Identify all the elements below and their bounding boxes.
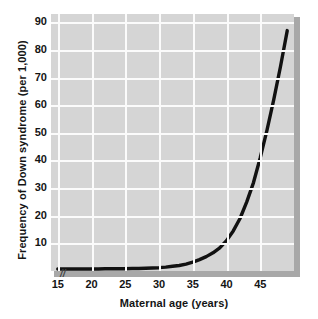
x-gridline bbox=[92, 14, 94, 271]
y-gridline bbox=[51, 105, 294, 107]
x-gridline bbox=[58, 14, 60, 271]
y-tick-label: 70 bbox=[1, 71, 47, 83]
x-tick-label: 20 bbox=[77, 278, 107, 290]
y-tick-label: 20 bbox=[1, 209, 47, 221]
y-tick-label: 10 bbox=[1, 236, 47, 248]
chart-figure: Frequency of Down syndrome (per 1,000) 1… bbox=[0, 0, 318, 319]
x-gridline bbox=[193, 14, 195, 271]
y-tick-label: 40 bbox=[1, 153, 47, 165]
y-tick-label: 90 bbox=[1, 15, 47, 27]
x-tick-label: 40 bbox=[212, 278, 242, 290]
y-tick-label: 80 bbox=[1, 43, 47, 55]
y-gridline bbox=[51, 216, 294, 218]
y-gridline bbox=[51, 50, 294, 52]
y-gridline bbox=[51, 78, 294, 80]
y-tick-label: 60 bbox=[1, 98, 47, 110]
y-axis-tick-labels: 102030405060708090 bbox=[0, 0, 47, 319]
x-tick-label: 15 bbox=[43, 278, 73, 290]
x-axis-title: Maternal age (years) bbox=[51, 297, 297, 309]
y-tick-label: 50 bbox=[1, 126, 47, 138]
plot-canvas bbox=[51, 14, 294, 271]
y-gridline bbox=[51, 243, 294, 245]
plot-area bbox=[51, 14, 297, 274]
x-tick-label: 35 bbox=[178, 278, 208, 290]
y-gridline bbox=[51, 188, 294, 190]
x-tick-label: 30 bbox=[144, 278, 174, 290]
data-curve bbox=[51, 14, 294, 271]
y-tick-label: 30 bbox=[1, 181, 47, 193]
x-gridline bbox=[159, 14, 161, 271]
y-gridline bbox=[51, 22, 294, 24]
x-gridline bbox=[260, 14, 262, 271]
x-tick-label: 45 bbox=[245, 278, 275, 290]
y-gridline bbox=[51, 133, 294, 135]
y-gridline bbox=[51, 160, 294, 162]
x-gridline bbox=[125, 14, 127, 271]
x-gridline bbox=[227, 14, 229, 271]
x-tick-label: 25 bbox=[110, 278, 140, 290]
